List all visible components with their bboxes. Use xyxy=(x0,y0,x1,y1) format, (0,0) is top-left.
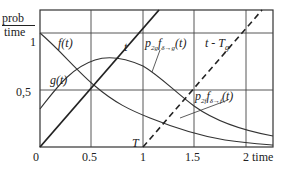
y-tick-0.5: 0,5 xyxy=(16,86,31,98)
p2g-sub: 2g xyxy=(151,44,158,52)
x-tick-1.5: 1.5 xyxy=(185,151,200,163)
y-axis-label-denominator: time xyxy=(4,26,25,38)
chart-canvas xyxy=(0,0,288,170)
x-tick-0.5: 0.5 xyxy=(82,151,97,163)
x-tick-0: 0 xyxy=(33,151,39,163)
p2g-arg: (t) xyxy=(175,36,186,50)
label-t-minus-Tg: t - Tg xyxy=(205,37,229,54)
x-tick-1: 1 xyxy=(140,151,146,163)
p2f-delta-sub: δ→f xyxy=(210,97,222,105)
label-p2g-fdelta-g: p2gfδ→g(t) xyxy=(145,37,186,54)
label-g: g(t) xyxy=(50,74,67,86)
y-axis-label-numerator: prob xyxy=(2,12,24,24)
p2f-arg: (t) xyxy=(222,89,233,103)
p2g-delta-sub: δ→g xyxy=(161,44,175,52)
label-f: f(t) xyxy=(58,37,73,49)
x-tick-2-time: 2 time xyxy=(243,151,273,163)
label-p2f-fdelta-f: p2ffδ→f(t) xyxy=(195,90,233,107)
plot-frame xyxy=(40,10,273,147)
y-tick-1: 1 xyxy=(30,36,36,48)
label-t-minus-T-text: t - T xyxy=(205,36,225,50)
label-T: T xyxy=(132,137,139,149)
series-g xyxy=(40,58,273,136)
label-Tg-subscript: g xyxy=(225,43,229,52)
label-t: t xyxy=(124,41,127,53)
